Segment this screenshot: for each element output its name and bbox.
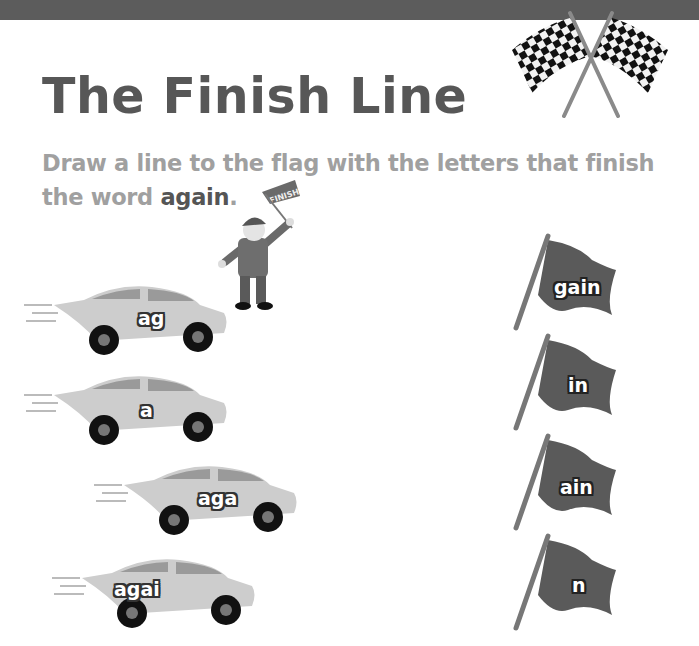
flag-label: in — [568, 374, 588, 396]
car-label: aga — [198, 487, 237, 509]
car-3[interactable]: aga — [92, 465, 302, 540]
flag-label: n — [572, 574, 586, 596]
instruction-text: Draw a line to the flag with the letters… — [42, 146, 682, 214]
race-car-icon — [22, 375, 232, 450]
flag-3[interactable]: ain — [508, 430, 618, 540]
instruction-prefix: Draw a line to the flag with the letters… — [42, 150, 654, 210]
car-1[interactable]: ag — [22, 285, 232, 360]
race-car-icon — [22, 285, 232, 360]
flag-icon — [508, 330, 618, 440]
flag-label: gain — [554, 276, 600, 298]
checkered-flags-icon — [500, 8, 680, 118]
flag-label: ain — [560, 476, 593, 498]
car-label: agai — [114, 578, 160, 600]
flag-4[interactable]: n — [508, 530, 618, 640]
car-label: a — [140, 399, 153, 421]
flag-icon — [508, 530, 618, 640]
car-4[interactable]: agai — [50, 558, 260, 633]
flag-1[interactable]: gain — [508, 230, 618, 340]
race-car-icon — [92, 465, 302, 540]
flag-2[interactable]: in — [508, 330, 618, 440]
car-2[interactable]: a — [22, 375, 232, 450]
page-title: The Finish Line — [42, 68, 467, 125]
car-label: ag — [138, 307, 164, 329]
